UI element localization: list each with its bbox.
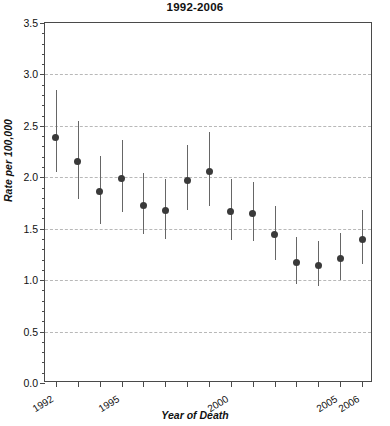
y-axis-minor-tick (42, 116, 45, 117)
y-axis-minor-tick (42, 85, 45, 86)
data-point (206, 168, 213, 175)
y-axis-minor-tick (42, 270, 45, 271)
y-axis-minor-tick (42, 33, 45, 34)
x-axis-tick (362, 381, 363, 387)
gridline-y (45, 229, 371, 230)
y-axis-minor-tick (42, 208, 45, 209)
y-axis-minor-tick (42, 249, 45, 250)
x-axis-tick (275, 381, 276, 387)
y-axis-minor-tick (42, 157, 45, 158)
data-point (74, 158, 81, 165)
y-axis-tick (40, 23, 45, 24)
y-axis-tick-label: 3.5 (23, 17, 38, 29)
plot-area: 0.00.51.01.52.02.53.03.51992199520002005… (44, 22, 372, 382)
y-axis-tick (40, 74, 45, 75)
x-axis-tick (209, 381, 210, 387)
chart-title: 1992-2006 (0, 1, 390, 13)
y-axis-tick (40, 332, 45, 333)
gridline-y (45, 177, 371, 178)
y-axis-minor-tick (42, 311, 45, 312)
y-axis-tick (40, 177, 45, 178)
y-axis-tick-label: 1.0 (23, 274, 38, 286)
y-axis-minor-tick (42, 44, 45, 45)
x-axis-tick (231, 381, 232, 387)
data-point (96, 188, 103, 195)
gridline-y (45, 126, 371, 127)
error-bar (56, 90, 57, 172)
data-point (271, 231, 278, 238)
x-axis-label: Year of Death (0, 409, 390, 421)
y-axis-tick (40, 126, 45, 127)
data-point (315, 262, 322, 269)
gridline-y (45, 74, 371, 75)
x-axis-tick (165, 381, 166, 387)
y-axis-tick-label: 2.5 (23, 120, 38, 132)
y-axis-minor-tick (42, 105, 45, 106)
y-axis-label: Rate per 100,000 (2, 119, 14, 202)
x-axis-tick (318, 381, 319, 387)
y-axis-minor-tick (42, 167, 45, 168)
y-axis-tick-label: 2.0 (23, 171, 38, 183)
y-axis-minor-tick (42, 198, 45, 199)
y-axis-tick-label: 0.5 (23, 326, 38, 338)
data-point (359, 236, 366, 243)
x-axis-tick (122, 381, 123, 387)
y-axis-tick (40, 383, 45, 384)
data-point (249, 210, 256, 217)
x-axis-tick (143, 381, 144, 387)
data-point (162, 207, 169, 214)
y-axis-minor-tick (42, 301, 45, 302)
y-axis-minor-tick (42, 146, 45, 147)
data-point (337, 255, 344, 262)
y-axis-minor-tick (42, 352, 45, 353)
x-axis-tick (187, 381, 188, 387)
y-axis-minor-tick (42, 239, 45, 240)
y-axis-minor-tick (42, 64, 45, 65)
y-axis-tick (40, 280, 45, 281)
data-point (118, 175, 125, 182)
gridline-y (45, 280, 371, 281)
y-axis-minor-tick (42, 54, 45, 55)
y-axis-minor-tick (42, 342, 45, 343)
data-point (293, 259, 300, 266)
x-axis-tick (340, 381, 341, 387)
y-axis-minor-tick (42, 136, 45, 137)
y-axis-tick (40, 229, 45, 230)
gridline-y (45, 332, 371, 333)
y-axis-minor-tick (42, 218, 45, 219)
y-axis-minor-tick (42, 188, 45, 189)
y-axis-minor-tick (42, 373, 45, 374)
data-point (227, 208, 234, 215)
y-axis-minor-tick (42, 260, 45, 261)
x-axis-tick (100, 381, 101, 387)
data-point (184, 177, 191, 184)
x-axis-tick (56, 381, 57, 387)
chart-container: 1992-2006 0.00.51.01.52.02.53.03.5199219… (0, 0, 390, 426)
y-axis-tick-label: 0.0 (23, 377, 38, 389)
y-axis-minor-tick (42, 290, 45, 291)
data-point (140, 202, 147, 209)
y-axis-minor-tick (42, 362, 45, 363)
y-axis-minor-tick (42, 95, 45, 96)
y-axis-minor-tick (42, 321, 45, 322)
x-axis-tick (296, 381, 297, 387)
y-axis-tick-label: 3.0 (23, 68, 38, 80)
y-axis-tick-label: 1.5 (23, 223, 38, 235)
data-point (52, 134, 59, 141)
x-axis-tick (78, 381, 79, 387)
x-axis-tick (253, 381, 254, 387)
